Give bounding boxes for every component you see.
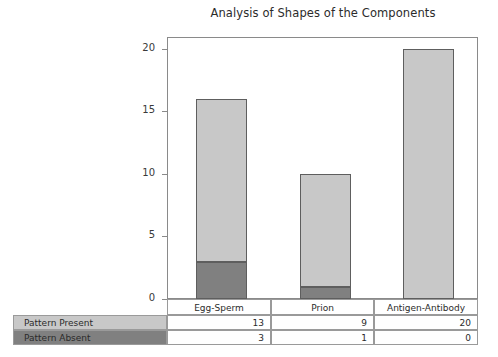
legend-pattern-present: Pattern Present <box>13 315 167 330</box>
bar-segment-pattern-present[interactable] <box>196 99 247 261</box>
table-corner-cell <box>13 299 167 315</box>
legend-pattern-absent: Pattern Absent <box>13 330 167 345</box>
data-table: Egg-Sperm Prion Antigen-Antibody Pattern… <box>13 299 478 346</box>
table-column-header-egg-sperm: Egg-Sperm <box>167 299 271 315</box>
table-column-header-prion: Prion <box>271 299 374 315</box>
y-tick-label: 5 <box>149 229 155 240</box>
table-cell-absent-egg-sperm: 3 <box>167 330 271 345</box>
table-cell-present-egg-sperm: 13 <box>167 315 271 330</box>
bar-segment-pattern-present[interactable] <box>300 174 351 286</box>
y-tick-label: 10 <box>142 167 155 178</box>
bar-stack-antigen-antibody[interactable] <box>403 49 454 299</box>
table-cell-present-prion: 9 <box>271 315 374 330</box>
bar-stack-egg-sperm[interactable] <box>196 99 247 299</box>
bar-segment-pattern-present[interactable] <box>403 49 454 299</box>
chart-figure: Analysis of Shapes of the Components 0 5… <box>0 0 498 357</box>
bar-stack-prion[interactable] <box>300 174 351 299</box>
table-row: Pattern Present 13 9 20 <box>13 315 478 330</box>
y-axis: 0 5 10 15 20 <box>0 37 167 299</box>
bars-layer <box>167 37 478 299</box>
table-cell-absent-antigen-antibody: 0 <box>374 330 478 345</box>
chart-title: Analysis of Shapes of the Components <box>167 6 479 20</box>
bar-segment-pattern-absent[interactable] <box>196 262 247 299</box>
table-cell-absent-prion: 1 <box>271 330 374 345</box>
table-row: Pattern Absent 3 1 0 <box>13 330 478 345</box>
table-column-header-antigen-antibody: Antigen-Antibody <box>374 299 478 315</box>
y-tick-label: 20 <box>142 42 155 53</box>
bar-segment-pattern-absent[interactable] <box>300 287 351 299</box>
table-header-row: Egg-Sperm Prion Antigen-Antibody <box>13 299 478 315</box>
y-tick-label: 15 <box>142 104 155 115</box>
table-cell-present-antigen-antibody: 20 <box>374 315 478 330</box>
